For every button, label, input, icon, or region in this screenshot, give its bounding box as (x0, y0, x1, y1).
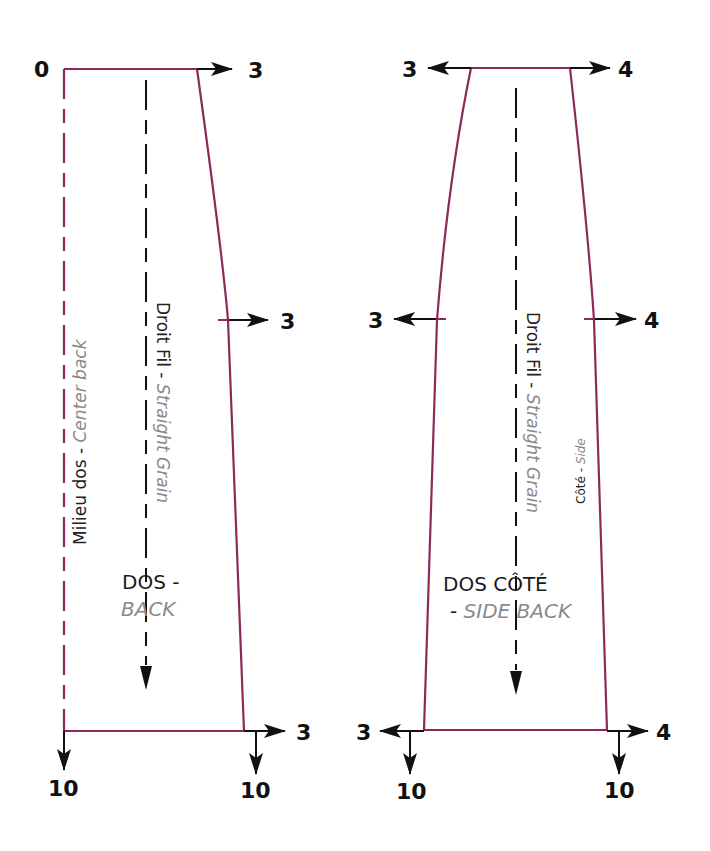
back-waist-right-value: 3 (280, 309, 295, 334)
side-back-title-fr: DOS CÔTÉ (443, 572, 548, 596)
side-back-piece: 3 4 3 4 3 4 10 10 Droit Fil - Straight G… (356, 57, 671, 804)
back-title-en: BACK (121, 597, 177, 621)
side-back-title-en: SIDE BACK (464, 599, 573, 623)
back-grain-arrowhead-icon (140, 666, 152, 690)
pattern-diagram: 3 0 3 3 10 10 Milieu dos - Center back D… (0, 0, 710, 851)
back-piece: 3 0 3 3 10 10 Milieu dos - Center back D… (34, 57, 311, 803)
side-back-title-en-line: - SIDE BACK (450, 599, 573, 623)
side-back-hem-right-value: 4 (656, 720, 671, 745)
center-back-label: Milieu dos - Center back (70, 338, 90, 545)
back-top-right-value: 3 (248, 58, 263, 83)
side-back-grain-label: Droit Fil - Straight Grain (523, 312, 543, 513)
back-top-left-value: 0 (34, 57, 49, 82)
back-grain-label: Droit Fil - Straight Grain (153, 302, 173, 503)
back-hem-right-down-value: 10 (240, 778, 271, 803)
side-back-waist-left-value: 3 (368, 308, 383, 333)
side-back-hem-right-down-value: 10 (604, 778, 635, 803)
side-back-hem-left-down-value: 10 (396, 779, 427, 804)
side-back-top-right-value: 4 (618, 57, 633, 82)
center-back-label-fr: Milieu dos (70, 459, 90, 545)
side-back-top-left-value: 3 (402, 57, 417, 82)
side-label: Côté - Side (574, 438, 588, 504)
back-title-fr: DOS - (122, 570, 179, 594)
center-back-label-en: Center back (70, 338, 90, 442)
back-hem-right-value: 3 (296, 720, 311, 745)
side-back-grain-arrowhead-icon (510, 671, 522, 695)
back-hem-left-down-value: 10 (48, 776, 79, 801)
side-back-hem-left-value: 3 (356, 720, 371, 745)
side-back-waist-right-value: 4 (644, 308, 659, 333)
